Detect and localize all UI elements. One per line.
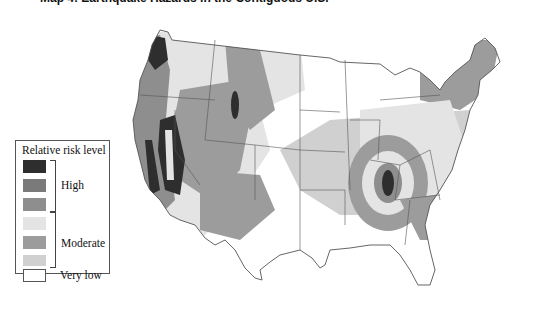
legend-label-moderate: Moderate: [61, 237, 105, 249]
swatch-moderate-mid: [23, 255, 46, 266]
legend-title: Relative risk level: [22, 144, 106, 156]
high-bracket: [50, 160, 56, 213]
moderate-bracket: [50, 211, 56, 268]
legend: Relative risk level High Moderate: [15, 140, 110, 274]
swatch-very-low: [23, 269, 46, 282]
legend-label-high: High: [61, 179, 84, 191]
swatch-high-light: [23, 198, 46, 211]
swatch-moderate-light: [23, 217, 46, 230]
swatch-moderate-dark: [23, 236, 46, 249]
legend-label-very-low: Very low: [60, 269, 102, 281]
swatch-high-dark: [23, 160, 46, 173]
swatch-high-mid: [23, 179, 46, 192]
